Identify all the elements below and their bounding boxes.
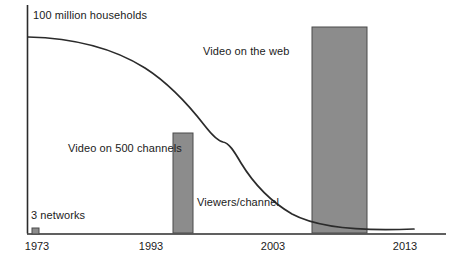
- annotation-video-on-the-web: Video on the web: [203, 45, 289, 57]
- bar-1973-three-networks: [32, 228, 39, 234]
- bar-2008-video-on-web: [312, 27, 367, 233]
- x-tick-label-1993: 1993: [139, 240, 163, 252]
- chart-container: 100 million households 3 networks Video …: [0, 0, 458, 266]
- annotation-video-on-500-channels: Video on 500 channels: [68, 142, 182, 154]
- annotation-viewers-per-channel: Viewers/channel: [197, 196, 279, 208]
- x-tick-label-2003: 2003: [261, 240, 285, 252]
- annotation-100-million-households: 100 million households: [33, 9, 147, 21]
- chart-plot-area: [0, 0, 458, 266]
- annotation-3-networks: 3 networks: [31, 209, 85, 221]
- x-tick-label-2013: 2013: [393, 240, 417, 252]
- x-tick-label-1973: 1973: [25, 240, 49, 252]
